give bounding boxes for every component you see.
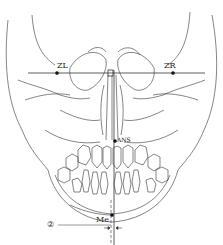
me-label: Me xyxy=(96,216,109,224)
skull-outline-drawing xyxy=(0,0,223,245)
zl-label: ZL xyxy=(57,62,68,70)
zr-label: ZR xyxy=(164,62,176,70)
skull-diagram: ZL ZR ANS Me ② xyxy=(0,0,223,245)
zl-point xyxy=(55,71,58,74)
zr-point xyxy=(171,71,174,74)
ans-label: ANS xyxy=(117,137,131,143)
marker-2-label: ② xyxy=(47,221,54,229)
me-point xyxy=(110,213,113,216)
